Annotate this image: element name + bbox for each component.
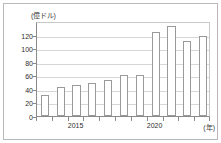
- bar: [104, 80, 112, 116]
- x-axis-tick-labels: 20152020: [36, 122, 216, 134]
- x-axis-tick-label: 2015: [68, 122, 84, 129]
- x-axis-unit-label: (年): [203, 122, 215, 132]
- bar: [88, 83, 96, 116]
- bar: [152, 32, 160, 116]
- x-axis-tick-mark: [36, 117, 37, 121]
- x-axis-tick-mark: [99, 117, 100, 121]
- bar: [136, 75, 144, 116]
- bar-series: [37, 23, 209, 116]
- x-axis-tick-mark: [52, 117, 53, 121]
- x-axis-tick-mark: [68, 117, 69, 121]
- x-axis-tick-label: 2020: [147, 122, 163, 129]
- chart-figure: (億ドル) 020406080100120 20152020 (年): [0, 0, 221, 143]
- x-axis-tick-mark: [115, 117, 116, 121]
- y-axis-tick-label: 80: [25, 60, 33, 67]
- x-axis-tick-mark: [178, 117, 179, 121]
- y-axis-tick-label: 60: [25, 73, 33, 80]
- x-axis-tick-mark: [83, 117, 84, 121]
- bar: [57, 87, 65, 116]
- x-axis-tick-mark: [163, 117, 164, 121]
- bar: [167, 26, 175, 116]
- y-axis-unit-label: (億ドル): [31, 10, 56, 20]
- y-axis-tick-labels: 020406080100120: [8, 22, 33, 117]
- x-axis-tick-mark: [194, 117, 195, 121]
- bar: [183, 41, 191, 116]
- plot-area: [36, 22, 210, 117]
- y-axis-tick-label: 100: [21, 46, 33, 53]
- y-axis-tick-label: 20: [25, 100, 33, 107]
- y-axis-tick-label: 120: [21, 33, 33, 40]
- x-axis-tick-mark: [147, 117, 148, 121]
- x-axis-tick-mark: [131, 117, 132, 121]
- bar: [72, 85, 80, 116]
- x-axis-tick-marks: [36, 117, 210, 121]
- y-axis-tick-label: 40: [25, 87, 33, 94]
- x-axis-tick-mark: [209, 117, 210, 121]
- bar: [120, 75, 128, 116]
- bar: [41, 95, 49, 116]
- bar: [199, 36, 207, 116]
